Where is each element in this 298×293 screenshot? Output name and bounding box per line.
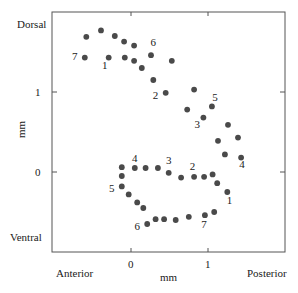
data-point <box>143 165 149 171</box>
data-point <box>209 104 215 110</box>
data-point <box>140 205 146 211</box>
data-point <box>131 43 137 49</box>
point-label: 5 <box>109 182 115 194</box>
data-point <box>153 216 159 222</box>
data-point <box>83 34 89 40</box>
x-tick-1: 1 <box>205 259 211 270</box>
data-point <box>161 216 167 222</box>
data-point <box>186 214 192 220</box>
x-tick-0: 0 <box>128 259 134 270</box>
point-label: 4 <box>132 152 138 164</box>
data-point <box>155 165 161 171</box>
point-label: 5 <box>212 91 218 103</box>
scatter-plot: 71625344325167 <box>0 0 298 293</box>
data-point <box>139 65 145 71</box>
y-tick-0: 0 <box>35 167 41 178</box>
data-point <box>150 77 156 83</box>
data-point <box>173 217 179 223</box>
data-point <box>121 39 127 45</box>
point-label: 2 <box>190 160 196 172</box>
point-label: 6 <box>151 36 157 48</box>
point-label: 1 <box>227 194 233 206</box>
dorsal-label: Dorsal <box>17 19 46 30</box>
data-point <box>98 28 104 34</box>
y-tick-1: 1 <box>35 87 41 98</box>
data-point <box>201 115 207 121</box>
data-point <box>82 55 88 61</box>
data-point <box>191 174 197 180</box>
point-label: 7 <box>72 50 78 62</box>
data-point <box>166 170 172 176</box>
data-point <box>178 175 184 181</box>
data-point <box>211 209 217 215</box>
plot-frame <box>52 12 285 252</box>
point-label: 3 <box>166 154 172 166</box>
data-point <box>210 172 216 178</box>
data-point <box>119 164 125 170</box>
data-point <box>134 200 140 206</box>
posterior-label: Posterior <box>247 268 287 279</box>
data-point <box>191 87 197 93</box>
data-point <box>214 180 220 186</box>
data-point <box>126 192 132 198</box>
ventral-label: Ventral <box>10 232 42 243</box>
data-point <box>112 33 118 39</box>
x-axis-label: mm <box>160 272 177 283</box>
data-point <box>225 122 231 128</box>
data-point <box>132 165 138 171</box>
data-point <box>235 135 241 141</box>
data-point <box>163 90 169 96</box>
y-axis-label: mm <box>16 121 27 138</box>
data-point <box>169 58 175 64</box>
point-label: 2 <box>153 89 159 101</box>
point-label: 1 <box>102 59 108 71</box>
point-label: 6 <box>134 220 140 232</box>
point-label: 7 <box>201 218 207 230</box>
data-point <box>131 58 137 64</box>
data-point <box>144 221 150 227</box>
data-point <box>215 138 221 144</box>
point-label: 4 <box>239 158 245 170</box>
data-point <box>119 184 125 190</box>
point-label: 3 <box>194 118 200 130</box>
data-point <box>201 174 207 180</box>
data-point <box>148 52 154 58</box>
data-point <box>184 107 190 113</box>
anterior-label: Anterior <box>56 268 93 279</box>
data-point <box>119 173 125 179</box>
data-point <box>222 152 228 158</box>
data-point <box>122 55 128 61</box>
